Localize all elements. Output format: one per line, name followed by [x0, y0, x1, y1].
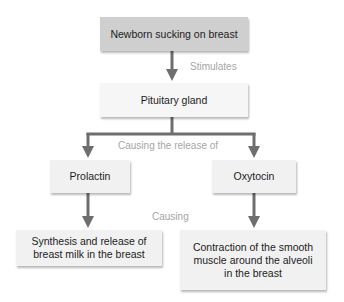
edge-label-stimulates: Stimulates	[190, 61, 237, 72]
node-pituitary-text: Pituitary gland	[141, 94, 208, 107]
node-synthesis-text: Synthesis and release of breast milk in …	[24, 235, 154, 261]
node-newborn: Newborn sucking on breast	[100, 17, 248, 51]
node-oxytocin: Oxytocin	[212, 160, 296, 193]
node-oxytocin-text: Oxytocin	[234, 170, 275, 183]
node-prolactin: Prolactin	[50, 160, 130, 193]
edge-label-causing-release: Causing the release of	[118, 140, 218, 151]
node-prolactin-text: Prolactin	[70, 170, 111, 183]
node-contraction: Contraction of the smooth muscle around …	[180, 230, 326, 290]
node-pituitary: Pituitary gland	[100, 83, 248, 117]
node-newborn-text: Newborn sucking on breast	[110, 28, 237, 41]
edge-label-causing: Causing	[152, 211, 189, 222]
node-synthesis: Synthesis and release of breast milk in …	[16, 230, 162, 266]
node-contraction-text: Contraction of the smooth muscle around …	[190, 241, 316, 280]
